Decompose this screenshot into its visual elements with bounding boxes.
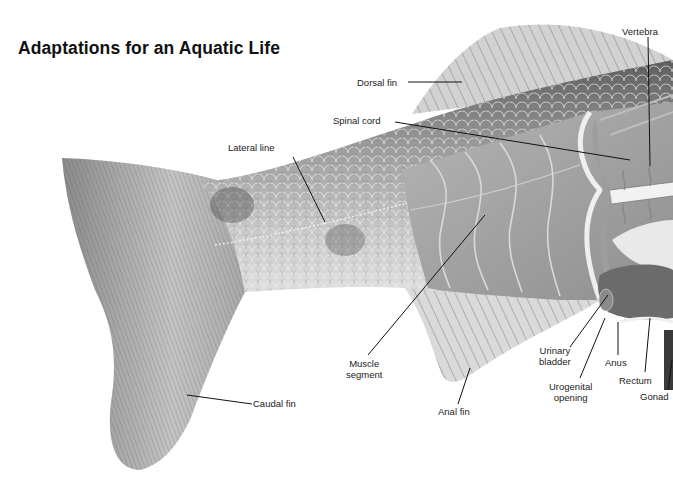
- label-muscle-segment-line1: Muscle: [346, 358, 382, 369]
- label-dorsal-fin: Dorsal fin: [357, 77, 397, 88]
- urinary-bladder-shape: [599, 289, 613, 311]
- leader-urogenital-opening: [580, 318, 605, 378]
- label-urinary-bladder-line2: bladder: [539, 356, 571, 367]
- label-caudal-fin: Caudal fin: [253, 398, 296, 409]
- fish-anatomy-figure: Adaptations for an Aquatic Life Vertebra…: [0, 0, 673, 490]
- label-gonad: Gonad: [640, 391, 669, 402]
- leader-rectum: [645, 318, 650, 372]
- label-anus: Anus: [605, 357, 627, 368]
- fish-illustration: [0, 0, 673, 490]
- label-spinal-cord: Spinal cord: [333, 115, 381, 126]
- label-urogenital-opening-line2: opening: [549, 392, 592, 403]
- label-rectum: Rectum: [619, 375, 652, 386]
- figure-title: Adaptations for an Aquatic Life: [18, 38, 280, 59]
- label-anal-fin: Anal fin: [438, 406, 470, 417]
- label-urinary-bladder: Urinary bladder: [539, 345, 571, 367]
- label-muscle-segment: Muscle segment: [346, 358, 382, 380]
- label-urogenital-opening-line1: Urogenital: [549, 381, 592, 392]
- anal-fin-shape: [405, 288, 600, 382]
- label-vertebra: Vertebra: [622, 26, 658, 37]
- label-urinary-bladder-line1: Urinary: [539, 345, 571, 356]
- label-urogenital-opening: Urogenital opening: [549, 381, 592, 403]
- label-muscle-segment-line2: segment: [346, 369, 382, 380]
- label-lateral-line: Lateral line: [228, 142, 274, 153]
